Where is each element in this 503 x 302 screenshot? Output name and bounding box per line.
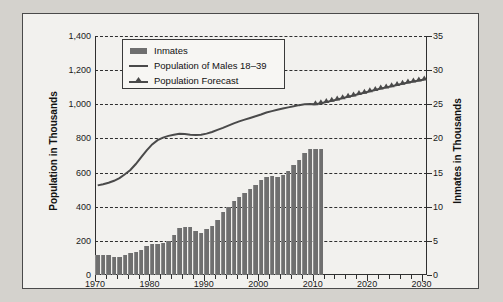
forecast-marker (405, 79, 411, 84)
legend-item-inmates: Inmates (128, 43, 279, 58)
y-axis-tickmark-right (427, 138, 432, 139)
forecast-marker (394, 81, 400, 86)
x-axis-tick-label: 2020 (357, 279, 377, 289)
y-axis-tickmark-right (427, 275, 432, 276)
x-axis-minor-tick (324, 275, 325, 279)
forecast-marker (389, 82, 395, 87)
y-axis-tickmark-right (427, 241, 432, 242)
y-axis-tick-left: 200 (76, 236, 91, 246)
y-axis-tick-right: 35 (433, 31, 443, 41)
forecast-marker (312, 100, 318, 105)
legend-label: Population Forecast (154, 75, 239, 86)
y-axis-tick-left: 1,200 (68, 65, 91, 75)
forecast-marker (383, 83, 389, 88)
x-axis-tick-label: 1970 (85, 279, 105, 289)
forecast-marker (416, 77, 422, 82)
y-axis-tick-right: 30 (433, 65, 443, 75)
y-axis-tick-right: 15 (433, 168, 443, 178)
x-axis-minor-tick (345, 275, 346, 279)
y-axis-label-left: Population in Thousands (48, 91, 59, 210)
y-axis-tick-left: 800 (76, 133, 91, 143)
x-axis-tick-label: 1980 (139, 279, 159, 289)
line-swatch-icon (128, 58, 149, 73)
x-axis-tick-label: 2000 (248, 279, 268, 289)
y-axis-tick-left: 1,000 (68, 99, 91, 109)
line-triangle-swatch-icon (128, 73, 149, 88)
population-line (98, 104, 316, 185)
y-axis-tickmark-right (427, 207, 432, 208)
x-axis-tick-label: 2010 (303, 279, 323, 289)
x-axis-minor-tick (400, 275, 401, 279)
x-axis-minor-tick (182, 275, 183, 279)
x-axis-minor-tick (291, 275, 292, 279)
x-axis-minor-tick (389, 275, 390, 279)
forecast-marker (318, 99, 324, 104)
bar-swatch-icon (128, 43, 149, 58)
x-axis-minor-tick (117, 275, 118, 279)
legend: Inmates Population of Males 18–39 Popula… (122, 39, 285, 89)
legend-label: Inmates (154, 45, 188, 56)
y-axis-tick-right: 25 (433, 99, 443, 109)
chart-frame: Population in Thousands Inmates in Thous… (22, 13, 479, 289)
y-axis-tick-left: 400 (76, 202, 91, 212)
y-axis-tickmark-right (427, 36, 432, 37)
y-axis-tickmark-right (427, 104, 432, 105)
x-axis-minor-tick (280, 275, 281, 279)
y-axis-tick-left: 600 (76, 168, 91, 178)
x-axis-minor-tick (171, 275, 172, 279)
x-axis-minor-tick (128, 275, 129, 279)
x-axis-tick-label: 2030 (412, 279, 432, 289)
x-axis-minor-tick (237, 275, 238, 279)
legend-label: Population of Males 18–39 (154, 60, 267, 71)
y-axis-tick-right: 20 (433, 133, 443, 143)
forecast-marker (378, 85, 384, 90)
forecast-marker (410, 78, 416, 83)
x-axis-minor-tick (215, 275, 216, 279)
y-axis-tickmark-right (427, 70, 432, 71)
x-axis-minor-tick (269, 275, 270, 279)
forecast-marker (323, 98, 329, 103)
x-axis-minor-tick (160, 275, 161, 279)
y-axis-tick-right: 5 (433, 236, 438, 246)
legend-item-forecast: Population Forecast (128, 73, 279, 88)
x-axis-minor-tick (334, 275, 335, 279)
forecast-marker (421, 76, 427, 81)
y-axis-tickmark-right (427, 173, 432, 174)
y-axis-tick-right: 0 (433, 270, 438, 280)
legend-item-population: Population of Males 18–39 (128, 58, 279, 73)
forecast-marker (400, 80, 406, 85)
x-axis-tick-label: 1990 (194, 279, 214, 289)
x-axis-minor-tick (378, 275, 379, 279)
figure: Population in Thousands Inmates in Thous… (0, 0, 503, 302)
y-axis-tick-right: 10 (433, 202, 443, 212)
y-axis-tick-left: 1,400 (68, 31, 91, 41)
x-axis-minor-tick (106, 275, 107, 279)
y-axis-label-right: Inmates in Thousands (452, 98, 463, 204)
x-axis-minor-tick (226, 275, 227, 279)
